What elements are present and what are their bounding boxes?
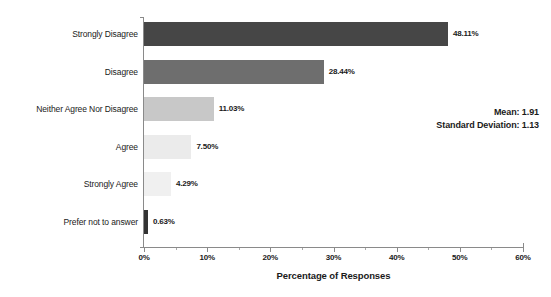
standard-deviation-label: Standard Deviation: 1.13	[436, 119, 539, 132]
x-tick-60%	[523, 248, 524, 252]
bar	[144, 172, 171, 196]
bar	[144, 60, 324, 84]
x-minor-tick	[176, 248, 177, 250]
bar-value-label: 48.11%	[453, 29, 479, 38]
x-axis-title: Percentage of Responses	[144, 270, 523, 281]
x-tick-label: 40%	[389, 253, 404, 262]
x-tick-20%	[270, 248, 271, 252]
category-label: Neither Agree Nor Disagree	[36, 104, 138, 114]
bar-value-label: 7.50%	[196, 142, 218, 151]
category-label: Agree	[116, 142, 138, 152]
x-tick-30%	[334, 248, 335, 252]
y-axis-top-cap	[140, 17, 144, 18]
bar-value-label: 4.29%	[176, 179, 198, 188]
bar-value-label: 11.03%	[219, 104, 245, 113]
x-tick-10%	[207, 248, 208, 252]
x-minor-tick	[428, 248, 429, 250]
x-tick-40%	[397, 248, 398, 252]
x-minor-tick	[302, 248, 303, 250]
bar	[144, 97, 214, 121]
bar-chart: 0%10%20%30%40%50%60% 48.11%Strongly Disa…	[0, 0, 551, 297]
x-minor-tick	[365, 248, 366, 250]
category-label: Strongly Disagree	[72, 29, 138, 39]
x-tick-label: 0%	[138, 253, 149, 262]
x-minor-tick	[239, 248, 240, 250]
bar-value-label: 0.63%	[153, 217, 175, 226]
x-tick-label: 50%	[452, 253, 467, 262]
bar	[144, 135, 191, 159]
x-tick-label: 60%	[515, 253, 530, 262]
x-tick-label: 30%	[326, 253, 341, 262]
x-tick-label: 10%	[199, 253, 214, 262]
category-label: Disagree	[105, 67, 138, 77]
bar	[144, 22, 448, 46]
bar-value-label: 28.44%	[329, 67, 355, 76]
statistics-annotation: Mean: 1.91 Standard Deviation: 1.13	[436, 106, 539, 132]
x-tick-0%	[144, 248, 145, 252]
category-label: Strongly Agree	[84, 179, 138, 189]
x-tick-50%	[460, 248, 461, 252]
mean-label: Mean: 1.91	[436, 106, 539, 119]
x-tick-label: 20%	[263, 253, 278, 262]
bar	[144, 210, 148, 234]
category-label: Prefer not to answer	[63, 217, 138, 227]
x-minor-tick	[491, 248, 492, 250]
